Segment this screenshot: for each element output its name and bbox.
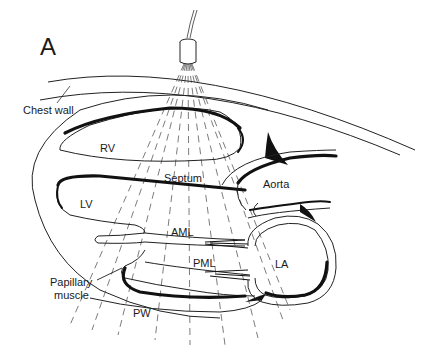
lv-label: LV [80,198,93,210]
papillary-pointer [97,268,122,280]
papillary-label-line1: Papillary [50,276,93,288]
ultrasound-transducer-icon [180,10,197,64]
posterior-wall [90,298,262,312]
pw-label: PW [133,307,151,319]
left-atrium [248,216,336,305]
rv-label: RV [100,142,116,154]
panel-label: A [40,33,56,60]
chest-wall-label: Chest wall [23,104,74,116]
chest-wall [40,76,415,155]
right-ventricle [60,108,243,161]
papillary-label-line2: muscle [54,289,89,301]
aml-label: AML [171,226,194,238]
echocardiogram-diagram: A Chest wall RV Septum [0,0,438,356]
la-label: LA [275,258,289,270]
aorta-label: Aorta [263,178,290,190]
pml-label: PML [193,257,216,269]
posterior-mitral-leaflet [122,250,256,297]
